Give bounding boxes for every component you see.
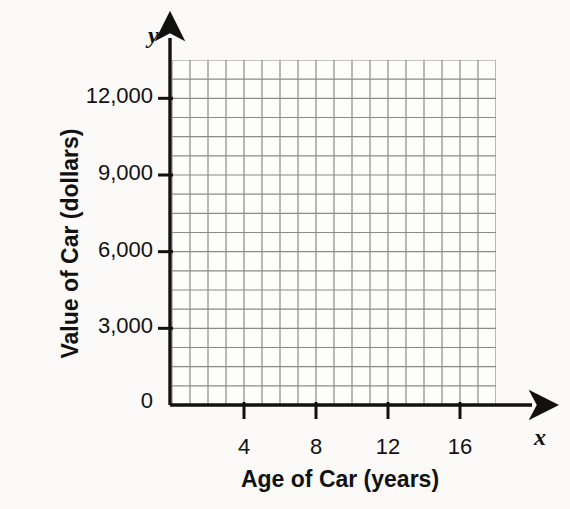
x-tick-label: 16 bbox=[448, 434, 472, 460]
grid-lines bbox=[172, 60, 496, 405]
y-axis-letter: y bbox=[148, 22, 159, 49]
plot-area bbox=[172, 60, 496, 405]
x-tick-labels: 481216 bbox=[0, 434, 570, 464]
y-tick-label: 9,000 bbox=[98, 160, 153, 186]
x-tick-label: 4 bbox=[238, 434, 250, 460]
y-tick-label: 3,000 bbox=[98, 313, 153, 339]
x-axis-letter: x bbox=[534, 424, 546, 451]
x-tick-label: 12 bbox=[376, 434, 400, 460]
chart-figure: 3,0006,0009,00012,0000 481216 y x Value … bbox=[0, 0, 570, 509]
origin-label: 0 bbox=[141, 388, 153, 414]
y-tick-label: 12,000 bbox=[86, 83, 153, 109]
x-tick-label: 8 bbox=[310, 434, 322, 460]
y-axis-title: Value of Car (dollars) bbox=[57, 79, 84, 409]
x-axis-title: Age of Car (years) bbox=[150, 466, 530, 493]
y-tick-label: 6,000 bbox=[98, 237, 153, 263]
